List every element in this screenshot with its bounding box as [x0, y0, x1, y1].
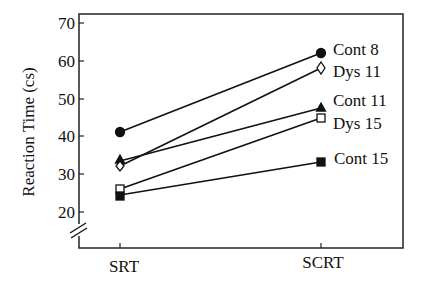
x-tick-srt: SRT	[109, 257, 140, 276]
marker-open-diamond-icon	[317, 62, 325, 74]
x-tick-scrt: SCRT	[302, 253, 344, 272]
y-tick-20: 20	[58, 203, 75, 222]
marker-filled-square-icon	[116, 192, 124, 200]
marker-filled-square-icon	[317, 158, 325, 166]
y-tick-60: 60	[58, 52, 75, 71]
y-tick-70: 70	[58, 14, 75, 33]
axis-break-icon	[70, 223, 87, 238]
label-cont-11: Cont 11	[333, 91, 387, 110]
label-dys-15: Dys 15	[333, 114, 382, 133]
marker-filled-circle-icon	[317, 49, 326, 58]
label-dys-11: Dys 11	[333, 62, 381, 81]
label-cont-15: Cont 15	[334, 149, 388, 168]
y-tick-50: 50	[58, 90, 75, 109]
y-tick-40: 40	[58, 127, 75, 146]
label-cont-8: Cont 8	[333, 40, 379, 59]
marker-filled-circle-icon	[116, 128, 125, 137]
series-lines	[120, 53, 321, 195]
line-dys-11	[120, 68, 321, 166]
markers-scrt	[317, 49, 326, 167]
marker-open-square-icon	[317, 114, 325, 122]
marker-filled-triangle-icon	[317, 103, 326, 111]
reaction-time-chart: 70 60 50 40 30 20 Reaction Time (cs) SRT…	[0, 0, 425, 287]
y-tick-30: 30	[58, 165, 75, 184]
y-axis-title: Reaction Time (cs)	[19, 67, 38, 196]
line-cont-8	[120, 53, 321, 132]
